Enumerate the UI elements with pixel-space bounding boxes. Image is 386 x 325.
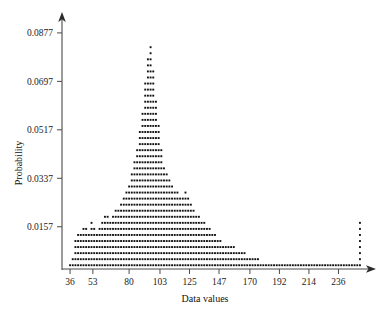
data-dot xyxy=(222,252,224,254)
data-dot xyxy=(158,228,160,230)
data-dot xyxy=(80,252,82,254)
data-dot xyxy=(201,234,203,236)
data-dot xyxy=(187,210,189,212)
data-dot xyxy=(303,264,305,266)
data-dot xyxy=(99,252,101,254)
data-dot xyxy=(134,234,136,236)
x-tick-label: 53 xyxy=(88,277,98,287)
data-dot xyxy=(147,252,149,254)
data-dot xyxy=(206,252,208,254)
data-dot xyxy=(174,258,176,260)
data-dot xyxy=(136,180,138,182)
data-dot xyxy=(158,131,160,133)
data-dot xyxy=(142,222,144,224)
data-dot xyxy=(158,173,160,175)
data-dot xyxy=(193,252,195,254)
data-dot xyxy=(120,234,122,236)
data-dot xyxy=(168,216,170,218)
data-dot xyxy=(96,264,98,266)
data-dot xyxy=(136,252,138,254)
data-dot xyxy=(190,228,192,230)
data-dot xyxy=(134,222,136,224)
data-dot xyxy=(182,258,184,260)
data-dot xyxy=(335,264,337,266)
data-dot xyxy=(134,210,136,212)
data-dot xyxy=(77,252,79,254)
data-dot xyxy=(203,246,205,248)
data-dot xyxy=(233,246,235,248)
data-dot xyxy=(112,228,114,230)
data-dot xyxy=(278,264,280,266)
data-dot xyxy=(166,204,168,206)
data-dot xyxy=(139,137,141,139)
data-dot xyxy=(147,64,149,66)
data-dot xyxy=(152,264,154,266)
data-dot xyxy=(109,258,111,260)
data-dot xyxy=(131,240,133,242)
data-dot xyxy=(152,125,154,127)
data-dot xyxy=(289,264,291,266)
data-dot xyxy=(131,222,133,224)
data-dot xyxy=(109,222,111,224)
data-dot xyxy=(150,77,152,79)
data-dot xyxy=(300,264,302,266)
data-dot xyxy=(195,216,197,218)
data-dot xyxy=(219,264,221,266)
data-dot xyxy=(329,264,331,266)
data-dot xyxy=(136,240,138,242)
data-dot xyxy=(139,240,141,242)
data-dot xyxy=(163,234,165,236)
data-dot xyxy=(142,216,144,218)
data-dot xyxy=(171,234,173,236)
data-dot xyxy=(144,204,146,206)
data-dot xyxy=(284,264,286,266)
data-dot xyxy=(168,180,170,182)
y-tick-label: 0.0517 xyxy=(27,125,53,135)
data-dot xyxy=(152,70,154,72)
data-dot xyxy=(260,264,262,266)
data-dot xyxy=(179,246,181,248)
data-dot xyxy=(198,246,200,248)
data-dot xyxy=(91,252,93,254)
data-dot xyxy=(295,264,297,266)
data-dot xyxy=(185,228,187,230)
data-dot xyxy=(254,264,256,266)
data-dot xyxy=(147,198,149,200)
data-dot xyxy=(160,252,162,254)
data-dot xyxy=(155,155,157,157)
data-dot xyxy=(230,264,232,266)
data-dot xyxy=(123,198,125,200)
data-dot xyxy=(136,234,138,236)
data-dot xyxy=(136,198,138,200)
data-dot xyxy=(144,167,146,169)
data-dot xyxy=(150,83,152,85)
data-dot xyxy=(147,167,149,169)
data-dot xyxy=(123,222,125,224)
data-dot xyxy=(166,252,168,254)
data-dot xyxy=(91,240,93,242)
data-dot xyxy=(168,192,170,194)
data-dot xyxy=(158,234,160,236)
data-dot xyxy=(168,228,170,230)
data-dot xyxy=(117,264,119,266)
data-dot xyxy=(144,210,146,212)
data-dot xyxy=(150,252,152,254)
data-dot xyxy=(160,228,162,230)
data-dot xyxy=(209,246,211,248)
data-dot xyxy=(166,258,168,260)
data-dot xyxy=(134,186,136,188)
data-dot xyxy=(356,264,358,266)
y-axis xyxy=(58,12,66,270)
data-dot xyxy=(203,228,205,230)
data-dot xyxy=(332,264,334,266)
data-dot xyxy=(359,258,361,260)
data-dot xyxy=(155,167,157,169)
x-axis-title: Data values xyxy=(182,293,229,304)
data-dot xyxy=(115,258,117,260)
data-dot xyxy=(236,264,238,266)
data-dot xyxy=(230,246,232,248)
data-dot xyxy=(134,252,136,254)
data-dot xyxy=(198,222,200,224)
data-dot xyxy=(313,264,315,266)
data-dot xyxy=(125,216,127,218)
